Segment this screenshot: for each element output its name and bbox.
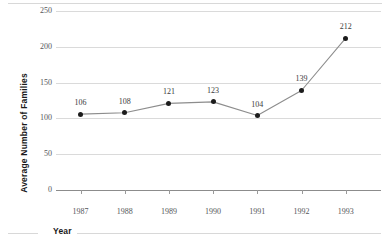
data-point-label: 121 bbox=[147, 87, 191, 96]
y-tick-label: 100 bbox=[24, 113, 52, 123]
y-tick-label-text: 0 bbox=[26, 185, 52, 194]
x-axis-line bbox=[56, 190, 381, 191]
data-point-marker bbox=[211, 99, 216, 104]
gridline bbox=[56, 83, 381, 84]
data-point-label: 104 bbox=[235, 100, 279, 109]
x-tick-mark bbox=[213, 190, 214, 194]
y-tick-label: 150 bbox=[24, 78, 52, 88]
y-tick-label: 200 bbox=[24, 42, 52, 52]
data-point-label: 123 bbox=[191, 86, 235, 95]
x-tick-mark bbox=[81, 190, 82, 194]
y-tick-label: 0 bbox=[24, 185, 52, 195]
data-point-marker bbox=[255, 113, 260, 118]
x-axis-title: Year bbox=[48, 226, 77, 236]
y-tick-label-text: 100 bbox=[26, 113, 52, 122]
x-tick-label: 1992 bbox=[282, 207, 322, 216]
x-tick-label: 1987 bbox=[61, 207, 101, 216]
x-tick-mark bbox=[169, 190, 170, 194]
bottom-rule-left bbox=[8, 233, 38, 234]
data-point-label: 139 bbox=[280, 74, 324, 83]
data-point-marker bbox=[343, 36, 348, 41]
gridline bbox=[56, 118, 381, 119]
x-tick-mark bbox=[125, 190, 126, 194]
data-point-label: 106 bbox=[59, 98, 103, 107]
gridline bbox=[56, 11, 381, 12]
top-rule bbox=[8, 3, 382, 4]
x-tick-mark bbox=[257, 190, 258, 194]
data-point-label: 212 bbox=[324, 22, 368, 31]
x-tick-label: 1990 bbox=[193, 207, 233, 216]
gridline bbox=[56, 47, 381, 48]
y-tick-label-text: 250 bbox=[26, 6, 52, 15]
data-point-marker bbox=[299, 88, 304, 93]
y-tick-label-text: 150 bbox=[26, 78, 52, 87]
data-point-marker bbox=[166, 101, 171, 106]
line-chart: Average Number of Families 0501001502002… bbox=[0, 0, 388, 248]
x-tick-label: 1989 bbox=[149, 207, 189, 216]
y-tick-label: 250 bbox=[24, 6, 52, 16]
x-tick-mark bbox=[302, 190, 303, 194]
data-point-marker bbox=[122, 110, 127, 115]
x-tick-label: 1993 bbox=[326, 207, 366, 216]
data-point-marker bbox=[78, 112, 83, 117]
y-tick-label-text: 200 bbox=[26, 42, 52, 51]
bottom-rule bbox=[48, 233, 381, 234]
data-point-label: 108 bbox=[103, 97, 147, 106]
x-tick-label: 1991 bbox=[237, 207, 277, 216]
y-tick-label: 50 bbox=[24, 149, 52, 159]
x-tick-label: 1988 bbox=[105, 207, 145, 216]
x-tick-mark bbox=[346, 190, 347, 194]
y-tick-label-text: 50 bbox=[26, 149, 52, 158]
gridline bbox=[56, 154, 381, 155]
